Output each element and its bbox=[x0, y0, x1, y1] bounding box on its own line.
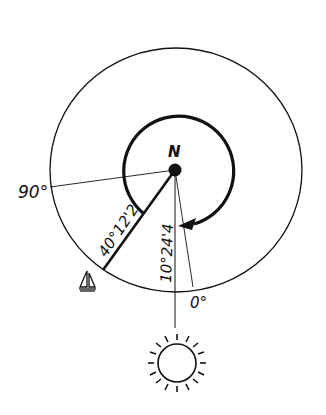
ninety-label: 90° bbox=[18, 182, 48, 202]
arrow-head-icon bbox=[178, 218, 196, 230]
sun-icon bbox=[148, 334, 206, 392]
zero-label: 0° bbox=[190, 294, 207, 312]
north-label: N bbox=[168, 143, 181, 161]
ninety-line bbox=[50, 170, 175, 187]
sun-angle-label: 10°24'4 bbox=[157, 223, 177, 283]
diagram-canvas: N 90° 0° 40°12'2 10°24'4 bbox=[0, 0, 326, 415]
polar-diagram: N 90° 0° 40°12'2 10°24'4 bbox=[0, 0, 326, 415]
boat-distance-label: 40°12'2 bbox=[94, 201, 142, 260]
sailboat-icon bbox=[79, 271, 96, 291]
